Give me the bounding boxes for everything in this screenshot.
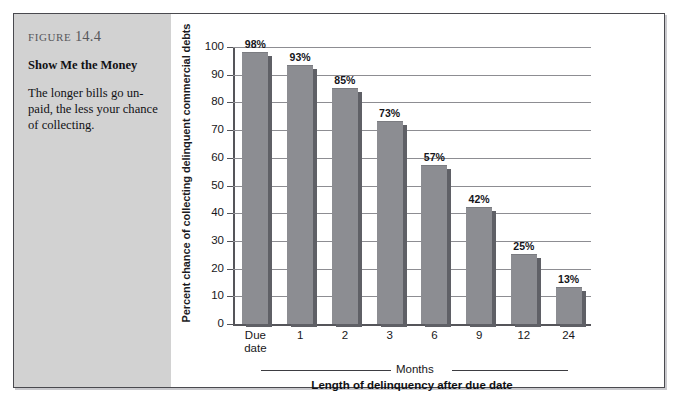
figure-frame: Figure 14.4 Show Me the Money The longer… (13, 13, 665, 388)
bar-value-label: 85% (334, 74, 355, 86)
bar-face (287, 65, 313, 324)
bar-face (332, 88, 358, 324)
y-axis-tick-label: 50 (176, 179, 224, 191)
x-axis-tick-label: 1 (297, 329, 303, 342)
bar[interactable]: 85% (332, 47, 358, 324)
bar-value-label: 93% (290, 51, 311, 63)
y-axis-tick-label: 40 (176, 206, 224, 218)
figure-number-value: 14.4 (75, 28, 101, 44)
y-axis-tick-label: 80 (176, 95, 224, 107)
bar-value-label: 57% (424, 151, 445, 163)
y-axis-tick-label: 60 (176, 151, 224, 163)
bar-value-label: 98% (245, 38, 266, 50)
bar[interactable]: 93% (287, 47, 313, 324)
x-axis-tick-label: 6 (431, 329, 437, 342)
y-axis-tick (227, 102, 233, 103)
bar-value-label: 13% (558, 273, 579, 285)
y-axis-tick (227, 186, 233, 187)
months-bracket: Months (233, 363, 591, 377)
figure-description: The longer bills go un-paid, the less yo… (28, 85, 159, 133)
y-axis-tick-label: 30 (176, 234, 224, 246)
x-axis-tick-label: Duedate (244, 329, 266, 355)
bar-face (421, 165, 447, 324)
bar-face (511, 254, 537, 324)
y-axis-tick-labels: 0102030405060708090100 (171, 47, 224, 324)
y-axis-tick-label: 10 (176, 289, 224, 301)
y-axis-tick (227, 269, 233, 270)
x-axis-tick-label: 24 (562, 329, 575, 342)
bar[interactable]: 25% (511, 47, 537, 324)
y-axis-tick (227, 241, 233, 242)
y-axis-tick-label: 90 (176, 68, 224, 80)
y-axis-tick (227, 213, 233, 214)
y-axis-tick-label: 100 (176, 40, 224, 52)
figure-caption-panel: Figure 14.4 Show Me the Money The longer… (14, 14, 171, 387)
months-bracket-line-left (261, 370, 391, 371)
x-axis-tick-label: 12 (517, 329, 530, 342)
bar[interactable]: 42% (466, 47, 492, 324)
bar-value-label: 42% (469, 193, 490, 205)
y-axis-tick (227, 324, 233, 325)
plot-area: 98%93%85%73%57%42%25%13% (233, 47, 591, 324)
months-bracket-label: Months (396, 363, 434, 375)
bar[interactable]: 57% (421, 47, 447, 324)
y-axis-tick (227, 130, 233, 131)
y-axis-tick-label: 70 (176, 123, 224, 135)
figure-number: Figure 14.4 (28, 28, 159, 45)
bar[interactable]: 73% (377, 47, 403, 324)
bar-value-label: 25% (513, 240, 534, 252)
x-axis-tick-labels: Duedate123691224 (233, 329, 591, 363)
bar-face (556, 287, 582, 324)
y-axis-tick-label: 20 (176, 262, 224, 274)
y-axis-tick-label: 0 (176, 317, 224, 329)
y-axis-tick (227, 47, 233, 48)
figure-number-word: Figure (28, 31, 71, 43)
bar-face (242, 52, 268, 324)
months-bracket-line-right (452, 370, 568, 371)
bar[interactable]: 13% (556, 47, 582, 324)
x-axis-tick-label: 2 (342, 329, 348, 342)
bar[interactable]: 98% (242, 47, 268, 324)
y-axis-tick (227, 75, 233, 76)
x-axis-title: Length of delinquency after due date (233, 379, 591, 391)
bar-face (377, 121, 403, 324)
bar-value-label: 73% (379, 107, 400, 119)
y-axis-tick (227, 296, 233, 297)
bar-face (466, 207, 492, 324)
figure-title: Show Me the Money (28, 58, 159, 73)
x-axis-tick-label: 3 (386, 329, 392, 342)
chart-region: Percent chance of collecting delinquent … (171, 14, 664, 387)
x-axis-tick-label: 9 (476, 329, 482, 342)
y-axis-tick (227, 158, 233, 159)
